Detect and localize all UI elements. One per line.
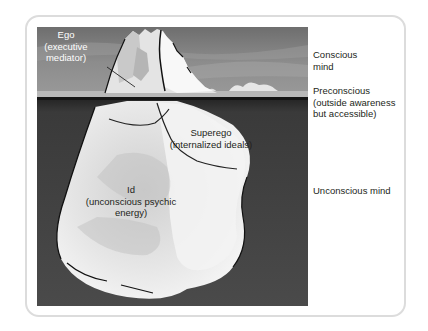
ego-desc-2: mediator)	[38, 52, 94, 64]
superego-label: Superego (internalized ideals)	[156, 127, 266, 150]
superego-desc: (internalized ideals)	[156, 139, 266, 151]
id-desc-1: (unconscious psychic	[78, 196, 184, 208]
conscious-line-2: mind	[313, 61, 357, 73]
unconscious-line-1: Unconscious mind	[313, 185, 391, 197]
conscious-mind-label: Conscious mind	[313, 49, 357, 72]
iceberg-graphic	[37, 27, 308, 306]
ego-desc-1: (executive	[38, 41, 94, 53]
id-title: Id	[78, 184, 184, 196]
ego-title: Ego	[38, 29, 94, 41]
preconscious-line-1: Preconscious	[313, 85, 395, 97]
ego-label: Ego (executive mediator)	[38, 29, 94, 64]
id-desc-2: energy)	[78, 207, 184, 219]
id-label: Id (unconscious psychic energy)	[78, 184, 184, 219]
conscious-line-1: Conscious	[313, 49, 357, 61]
unconscious-mind-label: Unconscious mind	[313, 185, 391, 197]
preconscious-label: Preconscious (outside awareness but acce…	[313, 85, 395, 120]
superego-title: Superego	[156, 127, 266, 139]
iceberg-illustration	[37, 27, 308, 306]
preconscious-line-3: but accessible)	[313, 108, 395, 120]
preconscious-line-2: (outside awareness	[313, 97, 395, 109]
